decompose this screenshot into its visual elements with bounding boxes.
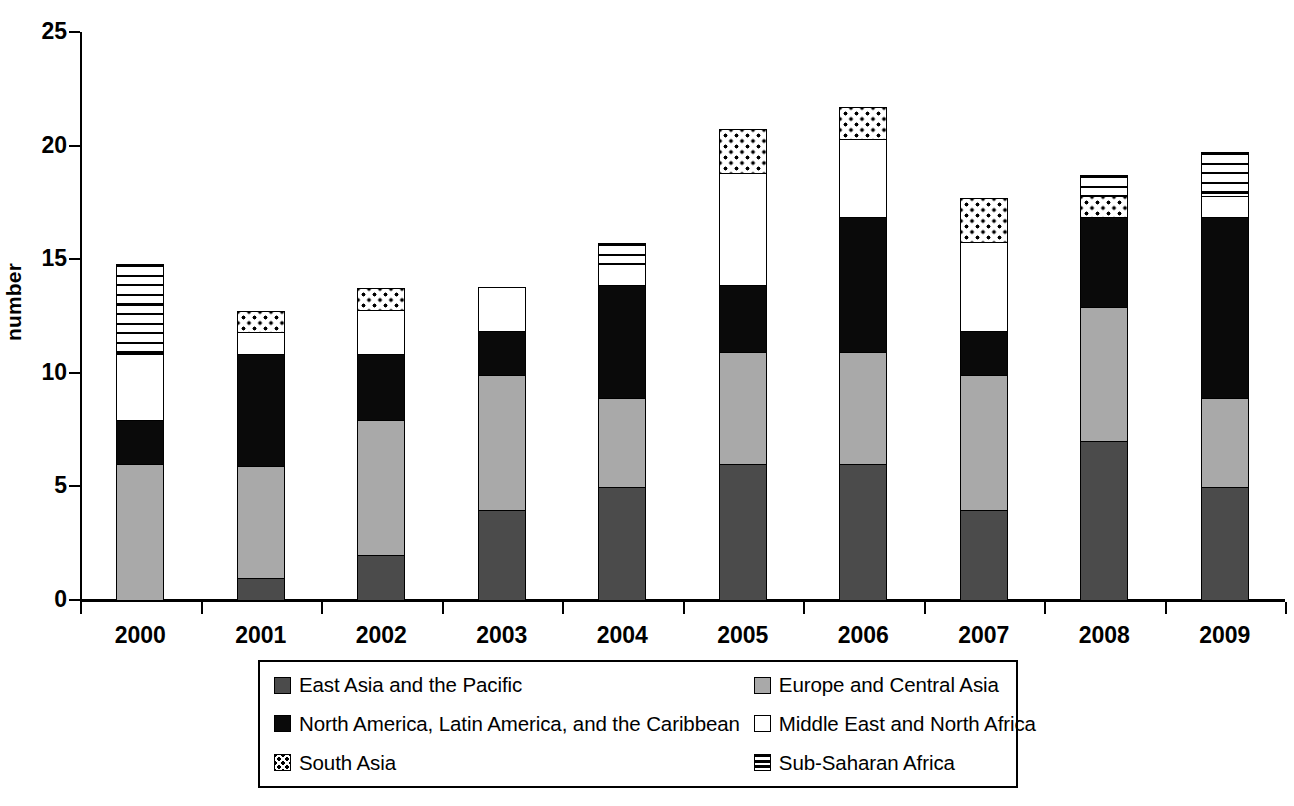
bar-2009[interactable] — [1201, 152, 1249, 599]
bar-segment-2008-eca[interactable] — [1080, 307, 1128, 443]
legend-label-eca: Europe and Central Asia — [779, 673, 999, 697]
legend-label-mena: Middle East and North Africa — [779, 712, 1036, 736]
y-tick-0 — [69, 599, 80, 601]
bar-segment-2006-mena[interactable] — [839, 139, 887, 219]
x-tick-4 — [562, 602, 564, 614]
y-tick-label-10: 10 — [21, 361, 67, 384]
x-tick-9 — [1165, 602, 1167, 614]
legend-swatch-icon-eca — [754, 677, 771, 694]
y-tick-label-25: 25 — [21, 20, 67, 43]
bar-segment-2004-eca[interactable] — [598, 398, 646, 489]
y-tick-10 — [69, 372, 80, 374]
bar-segment-2007-eca[interactable] — [960, 375, 1008, 511]
y-tick-25 — [69, 31, 80, 33]
bar-segment-2003-nalac[interactable] — [478, 331, 526, 376]
bar-segment-2006-eca[interactable] — [839, 352, 887, 466]
x-tick-8 — [1044, 602, 1046, 614]
x-axis-label-2006: 2006 — [803, 624, 923, 647]
bar-2007[interactable] — [960, 198, 1008, 599]
bar-segment-2008-nalac[interactable] — [1080, 217, 1128, 308]
bar-2005[interactable] — [719, 129, 767, 599]
bar-segment-2004-eap[interactable] — [598, 487, 646, 601]
bar-segment-2009-nalac[interactable] — [1201, 217, 1249, 399]
bar-2002[interactable] — [357, 288, 405, 599]
legend-swatch-icon-nalac — [274, 715, 291, 732]
bar-segment-2009-mena[interactable] — [1201, 196, 1249, 219]
bar-segment-2000-eca[interactable] — [116, 464, 164, 600]
bar-segment-2004-nalac[interactable] — [598, 285, 646, 399]
bar-segment-2009-eap[interactable] — [1201, 487, 1249, 601]
bar-segment-2007-eap[interactable] — [960, 510, 1008, 601]
bar-2006[interactable] — [839, 107, 887, 599]
x-axis-label-2008: 2008 — [1044, 624, 1164, 647]
plot-area: 0510152025 20002001200220032004200520062… — [80, 32, 1285, 600]
y-tick-label-20: 20 — [21, 134, 67, 157]
bar-segment-2002-nalac[interactable] — [357, 354, 405, 422]
bar-2001[interactable] — [237, 311, 285, 599]
bar-segment-2007-sa[interactable] — [960, 198, 1008, 243]
bar-segment-2000-mena[interactable] — [116, 354, 164, 422]
y-tick-label-15: 15 — [21, 247, 67, 270]
legend-label-ssa: Sub-Saharan Africa — [779, 751, 955, 775]
bar-segment-2006-eap[interactable] — [839, 464, 887, 600]
bar-segment-2009-eca[interactable] — [1201, 398, 1249, 489]
bar-segment-2002-eap[interactable] — [357, 555, 405, 600]
x-tick-2 — [321, 602, 323, 614]
bar-segment-2001-eap[interactable] — [237, 578, 285, 601]
bar-segment-2008-eap[interactable] — [1080, 441, 1128, 600]
legend-swatch-icon-mena — [754, 715, 771, 732]
bar-segment-2001-nalac[interactable] — [237, 354, 285, 468]
bar-segment-2001-sa[interactable] — [237, 311, 285, 334]
bar-segment-2002-eca[interactable] — [357, 420, 405, 556]
bar-2003[interactable] — [478, 287, 526, 599]
legend-item-ssa[interactable]: Sub-Saharan Africa — [740, 751, 1036, 775]
bar-segment-2001-eca[interactable] — [237, 466, 285, 580]
y-tick-5 — [69, 485, 80, 487]
bar-2008[interactable] — [1080, 175, 1128, 599]
bar-segment-2003-mena[interactable] — [478, 287, 526, 332]
bar-2000[interactable] — [116, 264, 164, 599]
bar-segment-2003-eap[interactable] — [478, 510, 526, 601]
bar-segment-2007-nalac[interactable] — [960, 331, 1008, 376]
y-tick-label-0: 0 — [21, 588, 67, 611]
bar-segment-2005-nalac[interactable] — [719, 285, 767, 353]
bar-segment-2007-mena[interactable] — [960, 242, 1008, 333]
y-tick-label-5: 5 — [21, 474, 67, 497]
bar-segment-2004-ssa[interactable] — [598, 243, 646, 266]
x-tick-1 — [201, 602, 203, 614]
bar-segment-2002-mena[interactable] — [357, 310, 405, 355]
bar-segment-2002-sa[interactable] — [357, 288, 405, 311]
bar-segment-2004-mena[interactable] — [598, 264, 646, 287]
bar-segment-2009-ssa[interactable] — [1201, 152, 1249, 197]
x-tick-7 — [924, 602, 926, 614]
legend-label-eap: East Asia and the Pacific — [299, 673, 522, 697]
bar-segment-2006-nalac[interactable] — [839, 217, 887, 353]
bar-segment-2005-sa[interactable] — [719, 129, 767, 174]
x-tick-5 — [683, 602, 685, 614]
legend-swatch-icon-sa — [274, 754, 291, 771]
legend-item-mena[interactable]: Middle East and North Africa — [740, 712, 1036, 736]
legend-item-eca[interactable]: Europe and Central Asia — [740, 673, 1036, 697]
legend-item-eap[interactable]: East Asia and the Pacific — [260, 673, 740, 697]
legend-item-nalac[interactable]: North America, Latin America, and the Ca… — [260, 712, 740, 736]
bar-segment-2008-ssa[interactable] — [1080, 175, 1128, 198]
bar-segment-2005-eca[interactable] — [719, 352, 767, 466]
x-axis-label-2000: 2000 — [80, 624, 200, 647]
bar-segment-2000-nalac[interactable] — [116, 420, 164, 465]
legend-swatch-icon-eap — [274, 677, 291, 694]
x-tick-10 — [1285, 602, 1287, 614]
bar-segment-2000-ssa[interactable] — [116, 264, 164, 355]
bar-segment-2003-eca[interactable] — [478, 375, 526, 511]
y-tick-20 — [69, 145, 80, 147]
bar-segment-2001-mena[interactable] — [237, 332, 285, 355]
x-axis-label-2005: 2005 — [683, 624, 803, 647]
bar-segment-2008-sa[interactable] — [1080, 196, 1128, 219]
bar-2004[interactable] — [598, 243, 646, 599]
bar-segment-2005-mena[interactable] — [719, 173, 767, 287]
bar-segment-2005-eap[interactable] — [719, 464, 767, 600]
legend-item-sa[interactable]: South Asia — [260, 751, 740, 775]
y-axis-line — [80, 32, 82, 601]
legend: East Asia and the PacificEurope and Cent… — [258, 660, 1018, 788]
stacked-bar-chart: number 0510152025 2000200120022003200420… — [0, 0, 1294, 806]
bar-segment-2006-sa[interactable] — [839, 107, 887, 141]
